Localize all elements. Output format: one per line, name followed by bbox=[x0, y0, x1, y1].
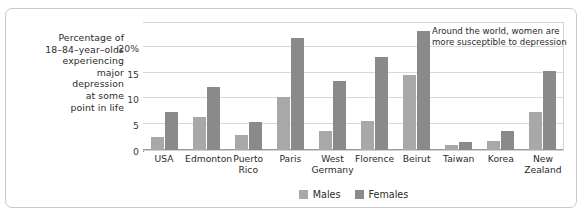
bar-female bbox=[165, 112, 178, 150]
bar-group bbox=[143, 112, 185, 150]
bar-male bbox=[361, 121, 374, 150]
x-axis-tick-label: New Zealand bbox=[522, 154, 564, 175]
legend-item-males: Males bbox=[299, 189, 341, 200]
bar-female bbox=[417, 31, 430, 150]
legend-swatch-males-icon bbox=[299, 190, 308, 199]
legend-swatch-females-icon bbox=[355, 190, 364, 199]
bar-female bbox=[333, 81, 346, 150]
bar-female bbox=[249, 122, 262, 150]
y-axis-tick-label: 20% bbox=[107, 42, 139, 53]
x-axis-tick-label: Puerto Rico bbox=[227, 154, 269, 175]
y-axis-tick-label: 5 bbox=[107, 120, 139, 131]
bar-male bbox=[235, 135, 248, 150]
y-axis-tick-label: 0 bbox=[107, 146, 139, 157]
bar-group bbox=[396, 31, 438, 150]
legend-label-females: Females bbox=[369, 189, 409, 200]
x-axis-tick-label: Edmonton bbox=[185, 154, 227, 165]
chart-legend: Males Females bbox=[143, 186, 564, 202]
bar-male bbox=[487, 141, 500, 150]
legend-label-males: Males bbox=[313, 189, 341, 200]
legend-item-females: Females bbox=[355, 189, 409, 200]
bar-male bbox=[193, 117, 206, 150]
x-axis-tick-label: West Germany bbox=[311, 154, 353, 175]
bar-group bbox=[269, 38, 311, 150]
bar-female bbox=[207, 87, 220, 150]
bar-male bbox=[403, 75, 416, 150]
x-axis-tick-label: Paris bbox=[269, 154, 311, 165]
y-axis-tick-label: 15 bbox=[107, 68, 139, 79]
chart-figure: Percentage of 18–84–year–olds experienci… bbox=[0, 0, 586, 220]
x-axis-tick-label: Beirut bbox=[396, 154, 438, 165]
x-axis-tick-label: Korea bbox=[480, 154, 522, 165]
bar-group bbox=[480, 131, 522, 150]
x-axis-tick-label: USA bbox=[143, 154, 185, 165]
bar-female bbox=[543, 71, 556, 150]
y-axis-tick-label: 10 bbox=[107, 94, 139, 105]
bar-male bbox=[445, 145, 458, 150]
x-axis-tick-label: Taiwan bbox=[438, 154, 480, 165]
bar-female bbox=[501, 131, 514, 150]
x-axis-labels: USAEdmontonPuerto RicoParisWest GermanyF… bbox=[143, 154, 564, 180]
x-axis-tick-label: Florence bbox=[354, 154, 396, 165]
bar-male bbox=[277, 97, 290, 150]
bar-male bbox=[529, 112, 542, 150]
bar-group bbox=[185, 87, 227, 150]
bar-group bbox=[354, 57, 396, 150]
y-axis-ticks: 05101520% bbox=[103, 22, 139, 151]
bar-male bbox=[319, 131, 332, 150]
chart-annotation: Around the world, women are more suscept… bbox=[432, 26, 572, 47]
bar-group bbox=[311, 81, 353, 150]
bar-female bbox=[459, 142, 472, 150]
bar-group bbox=[438, 142, 480, 150]
bar-group bbox=[227, 122, 269, 150]
bar-group bbox=[522, 71, 564, 150]
bar-female bbox=[291, 38, 304, 150]
bar-female bbox=[375, 57, 388, 150]
bar-male bbox=[151, 137, 164, 150]
